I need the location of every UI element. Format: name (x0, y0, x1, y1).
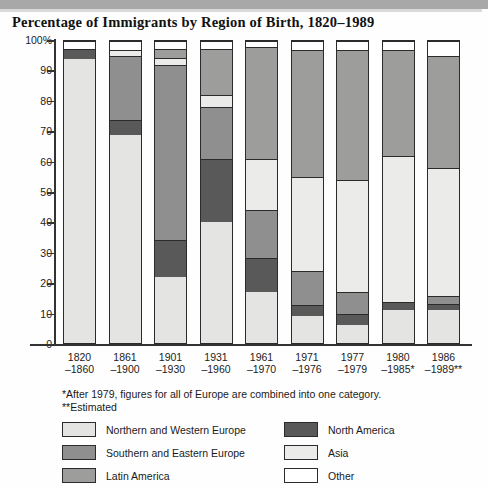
y-axis-tick (47, 222, 55, 224)
footnote-estimated: **Estimated (62, 401, 381, 414)
page-title: Percentage of Immigrants by Region of Bi… (12, 14, 375, 31)
y-axis-tick-label: 10 (8, 308, 52, 320)
bar-segment-nw_europe (428, 310, 459, 343)
bar-1820-1860[interactable] (63, 40, 96, 344)
bar-segment-other (64, 41, 95, 49)
bar-segment-nw_europe (292, 316, 323, 343)
bar-segment-asia (337, 180, 368, 292)
y-axis-tick-label: 70 (8, 125, 52, 137)
bar-segment-se_europe (428, 296, 459, 304)
y-axis-tick (47, 253, 55, 255)
x-axis-labels: 1820–18601861–19001901–19301931–19601961… (0, 352, 488, 382)
bar-segment-north_america (201, 159, 232, 222)
bar-1901-1930[interactable] (154, 40, 187, 344)
footnote-europe-combined: *After 1979, figures for all of Europe a… (62, 388, 381, 401)
bar-segment-latin_america (428, 56, 459, 168)
bar-segment-asia (428, 168, 459, 296)
legend-label-se_europe: Southern and Eastern Europe (106, 447, 245, 459)
bar-segment-se_europe (201, 107, 232, 158)
bar-segment-north_america (383, 302, 414, 310)
y-axis-tick (47, 101, 55, 103)
legend-label-north_america: North America (328, 424, 395, 436)
y-axis-tick-label: 90 (8, 64, 52, 76)
top-decorative-bar-shadow (0, 9, 482, 12)
bar-segment-latin_america (155, 49, 186, 58)
legend-item-latin_america[interactable]: Latin America (62, 464, 246, 487)
bar-segment-north_america (246, 258, 277, 291)
y-axis-tick-label: 100% (8, 34, 52, 46)
bar-segment-latin_america (337, 50, 368, 180)
y-axis-tick-label: 50 (8, 186, 52, 198)
legend-label-other: Other (328, 470, 354, 482)
x-axis-label: 1986–1989** (414, 352, 474, 375)
bar-segment-asia (383, 156, 414, 302)
bar-segment-se_europe (110, 56, 141, 119)
bar-segment-other (155, 41, 186, 49)
bar-1971-1976[interactable] (291, 40, 324, 344)
bar-segment-other (383, 41, 414, 50)
bar-1977-1979[interactable] (336, 40, 369, 344)
stacked-bar-plot-area (55, 40, 470, 344)
y-axis-labels: 100%9080706050403020100 (0, 0, 52, 360)
bar-segment-nw_europe (383, 310, 414, 343)
legend-swatch-other (284, 468, 318, 483)
bar-segment-nw_europe (246, 292, 277, 343)
y-axis-tick (47, 40, 55, 42)
legend-column-2: North AmericaAsiaOther (284, 418, 395, 487)
bar-segment-north_america (292, 305, 323, 316)
bar-segment-nw_europe (201, 222, 232, 343)
bar-1986-1989--[interactable] (427, 40, 460, 344)
bar-1861-1900[interactable] (109, 40, 142, 344)
bar-segment-north_america (64, 49, 95, 60)
bar-1931-1960[interactable] (200, 40, 233, 344)
y-axis-tick (47, 314, 55, 316)
legend-swatch-se_europe (62, 445, 96, 460)
bar-segment-nw_europe (110, 135, 141, 343)
bar-segment-nw_europe (64, 59, 95, 343)
bar-segment-asia (246, 159, 277, 210)
y-axis-tick (47, 162, 55, 164)
legend-label-asia: Asia (328, 447, 348, 459)
top-decorative-bar (0, 0, 488, 9)
x-axis-line (30, 344, 472, 346)
legend-item-asia[interactable]: Asia (284, 441, 395, 464)
legend-item-other[interactable]: Other (284, 464, 395, 487)
bar-segment-north_america (155, 240, 186, 276)
bar-segment-se_europe (292, 271, 323, 306)
bar-segment-other (110, 41, 141, 50)
legend-item-north_america[interactable]: North America (284, 418, 395, 441)
y-axis-tick (47, 70, 55, 72)
bar-segment-other (292, 41, 323, 50)
bar-segment-nw_europe (155, 277, 186, 343)
bar-segment-asia (201, 95, 232, 107)
bar-segment-other (201, 41, 232, 49)
bar-segment-se_europe (246, 210, 277, 258)
legend-swatch-latin_america (62, 468, 96, 483)
bar-segment-latin_america (383, 50, 414, 156)
bar-segment-se_europe (155, 65, 186, 240)
bar-segment-asia (155, 58, 186, 66)
legend-label-nw_europe: Northern and Western Europe (106, 424, 246, 436)
y-axis-tick-label: 30 (8, 247, 52, 259)
bar-segment-nw_europe (337, 325, 368, 343)
bar-segment-latin_america (201, 49, 232, 96)
legend-item-nw_europe[interactable]: Northern and Western Europe (62, 418, 246, 441)
y-axis-tick (47, 131, 55, 133)
y-axis-tick (47, 283, 55, 285)
bar-segment-north_america (110, 120, 141, 135)
footnotes: *After 1979, figures for all of Europe a… (62, 388, 381, 414)
legend-swatch-nw_europe (62, 422, 96, 437)
bar-1961-1970[interactable] (245, 40, 278, 344)
legend-swatch-north_america (284, 422, 318, 437)
y-axis-tick-label: 20 (8, 277, 52, 289)
bar-segment-other (428, 41, 459, 56)
x-axis-label-end: –1989** (414, 364, 474, 376)
y-axis-tick (47, 344, 55, 346)
bar-1980-1985-[interactable] (382, 40, 415, 344)
bar-segment-other (337, 41, 368, 50)
x-axis-label-start: 1986 (414, 352, 474, 364)
legend-item-se_europe[interactable]: Southern and Eastern Europe (62, 441, 246, 464)
legend-swatch-asia (284, 445, 318, 460)
bar-segment-north_america (337, 314, 368, 325)
bar-segment-asia (292, 177, 323, 271)
